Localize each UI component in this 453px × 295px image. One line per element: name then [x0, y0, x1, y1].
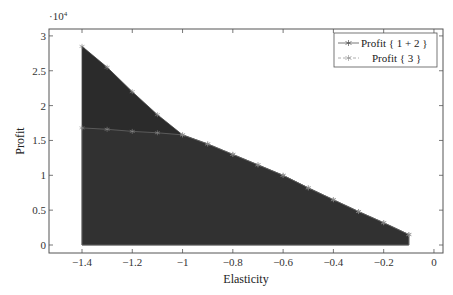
series-area	[82, 128, 409, 245]
legend: Profit { 1 + 2 } Profit { 3 }	[334, 33, 437, 67]
x-tick-label: −1.2	[122, 256, 142, 268]
x-tick-label: −1.4	[72, 256, 92, 268]
y-tick-label: 3	[41, 30, 47, 42]
y-tick-label: 2.5	[32, 65, 46, 77]
y-tick-label: 1.5	[32, 134, 46, 146]
x-tick-label: −0.8	[223, 256, 243, 268]
x-tick-label: −0.6	[273, 256, 293, 268]
series-areas	[82, 46, 409, 245]
y-tick-label: 2	[41, 100, 47, 112]
y-axis-label: Profit	[13, 127, 27, 155]
x-tick-label: −0.2	[374, 256, 394, 268]
x-tick-label: 0	[431, 256, 437, 268]
y-tick-label: 1	[41, 169, 47, 181]
x-axis-label: Elasticity	[223, 272, 268, 286]
y-tick-label: 0	[41, 239, 47, 251]
legend-label: Profit { 1 + 2 }	[361, 37, 428, 49]
y-tick-label: 0.5	[32, 204, 46, 216]
profit-elasticity-chart: −1.4−1.2−1−0.8−0.6−0.4−0.20 00.511.522.5…	[0, 0, 453, 295]
x-tick-label: −1	[177, 256, 189, 268]
x-tick-label: −0.4	[323, 256, 343, 268]
y-multiplier: ·104	[49, 10, 68, 22]
legend-label: Profit { 3 }	[372, 52, 421, 64]
